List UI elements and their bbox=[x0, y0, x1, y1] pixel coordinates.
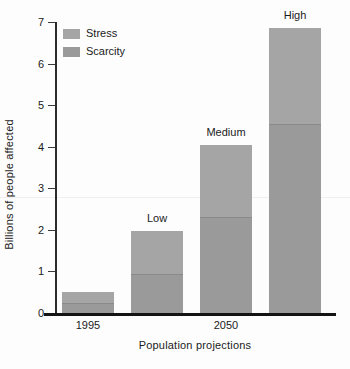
legend-entry-stress[interactable]: Stress bbox=[63, 26, 125, 41]
y-tick-mark-6 bbox=[48, 64, 55, 65]
bar-medium[interactable] bbox=[200, 145, 252, 313]
bar-high-segment-stress bbox=[269, 28, 321, 124]
scarcity-swatch-icon bbox=[63, 47, 80, 57]
legend: Stress Scarcity bbox=[63, 26, 125, 62]
y-tick-mark-5 bbox=[48, 105, 55, 106]
y-tick-mark-7 bbox=[48, 22, 55, 23]
legend-label-scarcity: Scarcity bbox=[86, 46, 125, 57]
bar-medium-label: Medium bbox=[181, 126, 271, 138]
y-tick-label-1: 1 bbox=[28, 266, 44, 277]
x-axis-title: Population projections bbox=[55, 339, 335, 351]
y-tick-mark-4 bbox=[48, 147, 55, 148]
bar-medium-segment-scarcity bbox=[200, 217, 252, 313]
y-tick-label-2: 2 bbox=[28, 225, 44, 236]
bar-low-segment-scarcity bbox=[131, 274, 183, 313]
y-tick-label-5: 5 bbox=[28, 100, 44, 111]
y-tick-label-4: 4 bbox=[28, 142, 44, 153]
y-tick-mark-3 bbox=[48, 188, 55, 189]
x-tick-label-2050: 2050 bbox=[186, 319, 266, 331]
stacked-bar-chart: Billions of people affected 7 6 5 4 3 2 … bbox=[0, 0, 350, 369]
bar-high-segment-scarcity bbox=[269, 124, 321, 313]
bar-1995[interactable] bbox=[62, 292, 114, 313]
legend-label-stress: Stress bbox=[86, 28, 117, 39]
bar-medium-segment-stress bbox=[200, 145, 252, 217]
bar-high[interactable] bbox=[269, 28, 321, 313]
bar-high-label: High bbox=[250, 9, 340, 21]
bar-1995-segment-scarcity bbox=[62, 303, 114, 313]
x-tick-label-1995: 1995 bbox=[48, 319, 128, 331]
y-tick-label-7: 7 bbox=[28, 17, 44, 28]
bar-low-label: Low bbox=[112, 212, 202, 224]
y-axis-title: Billions of people affected bbox=[0, 0, 18, 369]
y-tick-label-6: 6 bbox=[28, 59, 44, 70]
bar-low[interactable] bbox=[131, 231, 183, 313]
y-tick-mark-1 bbox=[48, 271, 55, 272]
bar-1995-segment-stress bbox=[62, 292, 114, 303]
y-tick-label-3: 3 bbox=[28, 183, 44, 194]
y-axis-spine bbox=[55, 22, 57, 314]
bar-low-segment-stress bbox=[131, 231, 183, 274]
y-tick-mark-2 bbox=[48, 230, 55, 231]
y-tick-label-0: 0 bbox=[28, 308, 44, 319]
stress-swatch-icon bbox=[63, 29, 80, 39]
x-axis-baseline bbox=[44, 313, 336, 316]
legend-entry-scarcity[interactable]: Scarcity bbox=[63, 44, 125, 59]
